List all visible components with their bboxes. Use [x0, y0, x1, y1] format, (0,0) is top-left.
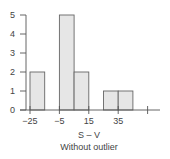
histogram-bar — [30, 72, 45, 110]
y-tick-label: 4 — [10, 29, 15, 39]
histogram-bar — [118, 91, 133, 110]
chart-subtitle: Without outlier — [60, 142, 118, 152]
histogram-bar — [104, 91, 119, 110]
histogram-bars — [30, 15, 133, 110]
histogram-bar — [59, 15, 74, 110]
x-axis-label: S – V — [78, 130, 100, 140]
x-tick-label: −5 — [54, 116, 64, 126]
y-tick-label: 3 — [10, 48, 15, 58]
y-tick-label: 2 — [10, 67, 15, 77]
x-tick-label: 35 — [113, 116, 123, 126]
x-tick-label: 15 — [84, 116, 94, 126]
histogram-chart: 012345−25−51535 S – V Without outlier — [0, 0, 170, 159]
y-tick-label: 5 — [10, 10, 15, 20]
y-tick-label: 1 — [10, 86, 15, 96]
y-tick-label: 0 — [10, 105, 15, 115]
x-tick-label: −25 — [22, 116, 37, 126]
histogram-bar — [74, 72, 89, 110]
